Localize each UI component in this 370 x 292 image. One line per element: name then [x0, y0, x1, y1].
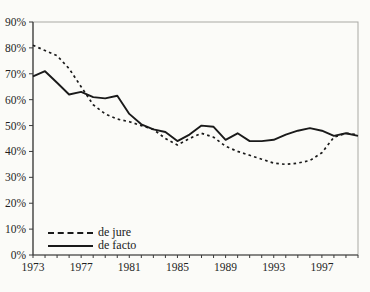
y-tick-label: 50% [5, 120, 27, 132]
x-tick-label: 1997 [310, 261, 333, 273]
solid-line-sample-icon [48, 245, 93, 247]
y-tick-label: 60% [5, 94, 27, 106]
legend-item-de-facto: de facto [48, 239, 136, 252]
series-de-facto [33, 71, 358, 141]
y-tick-label: 80% [5, 42, 27, 54]
y-tick-label: 10% [5, 223, 27, 235]
x-tick-label: 1985 [166, 261, 189, 273]
y-tick-label: 40% [5, 145, 27, 157]
y-tick-label: 90% [5, 16, 27, 28]
y-tick-label: 30% [5, 171, 27, 183]
legend-label-de-facto: de facto [98, 239, 136, 252]
x-tick-label: 1989 [214, 261, 237, 273]
y-tick-label: 70% [5, 68, 27, 80]
legend: de jure de facto [48, 226, 136, 252]
chart-container: 0%10%20%30%40%50%60%70%80%90%19731977198… [0, 0, 370, 292]
x-tick-label: 1973 [22, 261, 45, 273]
x-tick-label: 1977 [70, 261, 93, 273]
y-tick-label: 20% [5, 197, 27, 209]
y-tick-label: 0% [11, 249, 27, 261]
series-de-jure [33, 45, 358, 164]
x-tick-label: 1993 [262, 261, 285, 273]
x-tick-label: 1981 [118, 261, 141, 273]
plot-border [33, 22, 358, 255]
dashed-line-sample-icon [48, 232, 93, 234]
